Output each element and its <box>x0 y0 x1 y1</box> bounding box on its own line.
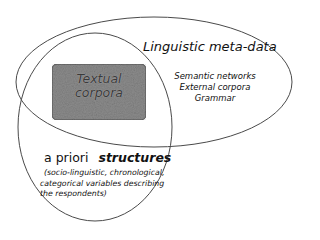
meta-item-external-corpora: External corpora <box>170 82 260 93</box>
apriori-title-emphasis: structures <box>98 150 171 165</box>
meta-item-grammar: Grammar <box>170 93 260 104</box>
apriori-description-line-3: the respondents) <box>40 189 160 200</box>
textual-corpora-label: Textual corpora <box>52 72 146 100</box>
apriori-description-line-1: (socio-linguistic, chronological, <box>40 168 160 179</box>
apriori-title-plain: a priori <box>44 150 88 165</box>
linguistic-meta-data-title: Linguistic meta-data <box>143 40 277 53</box>
apriori-structures-title: a prioristructures <box>44 152 171 165</box>
meta-item-semantic-networks: Semantic networks <box>170 71 260 82</box>
textual-corpora-line1: Textual <box>52 72 146 86</box>
apriori-structures-description: (socio-linguistic, chronological, catego… <box>40 168 160 200</box>
textual-corpora-line2: corpora <box>52 86 146 100</box>
linguistic-meta-data-items: Semantic networks External corpora Gramm… <box>170 71 260 104</box>
apriori-description-line-2: categorical variables describing <box>40 179 160 190</box>
